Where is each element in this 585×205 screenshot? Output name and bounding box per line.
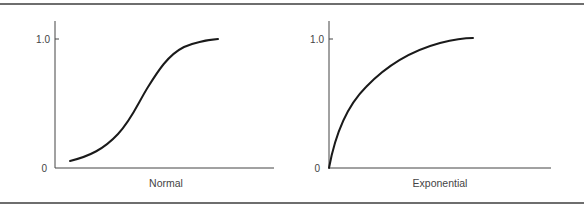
y-tick-label-bottom: 0: [314, 163, 320, 174]
y-tick-label-top: 1.0: [310, 34, 324, 45]
y-tick-label-bottom: 0: [41, 163, 47, 174]
y-tick-label-top: 1.0: [36, 34, 50, 45]
normal-panel: 1.0 0 Normal: [36, 21, 274, 189]
normal-curve: [70, 39, 218, 161]
exponential-curve: [329, 38, 473, 168]
x-axis-label: Normal: [149, 177, 183, 189]
bottom-rule: [0, 202, 584, 204]
figure-plots: 1.0 0 Normal 1.0 0 Exponential: [0, 0, 585, 205]
exponential-panel: 1.0 0 Exponential: [310, 21, 551, 189]
x-axis-label: Exponential: [413, 177, 468, 189]
